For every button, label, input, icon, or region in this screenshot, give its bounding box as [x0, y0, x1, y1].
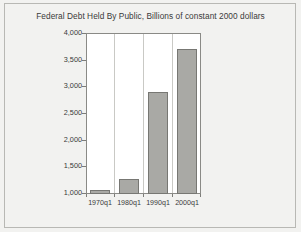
bar-2000q1 — [177, 49, 197, 194]
bar-1980q1 — [119, 179, 139, 194]
x-tick-label-2000q1: 2000q1 — [167, 199, 207, 208]
chart-figure: Federal Debt Held By Public, Billions of… — [0, 0, 301, 232]
y-tick-mark-3500 — [82, 60, 86, 61]
x-tick-mark-4 — [200, 194, 201, 197]
y-tick-mark-2500 — [82, 113, 86, 114]
y-axis-line — [86, 33, 87, 194]
y-tick-mark-4000 — [82, 33, 86, 34]
y-tick-mark-1500 — [82, 166, 86, 167]
y-tick-label-1500: 1,500 — [48, 162, 82, 170]
category-gridline-2 — [143, 34, 144, 193]
category-gridline-1 — [114, 34, 115, 193]
y-tick-label-2500: 2,500 — [48, 109, 82, 117]
y-tick-label-3000: 3,000 — [48, 82, 82, 90]
y-tick-label-3500: 3,500 — [48, 56, 82, 64]
x-tick-mark-0 — [86, 194, 87, 197]
y-tick-mark-3000 — [82, 86, 86, 87]
bar-1990q1 — [148, 92, 168, 194]
y-tick-label-2000: 2,000 — [48, 136, 82, 144]
y-tick-label-4000: 4,000 — [48, 29, 82, 37]
y-tick-mark-2000 — [82, 140, 86, 141]
y-tick-label-1000: 1,000 — [48, 189, 82, 197]
plot-border-top — [86, 33, 201, 34]
x-tick-mark-3 — [172, 194, 173, 197]
x-tick-mark-2 — [143, 194, 144, 197]
plot-border-right — [200, 33, 201, 194]
category-gridline-3 — [172, 34, 173, 193]
x-tick-mark-1 — [114, 194, 115, 197]
y-axis-tick-labels: 4,000 3,500 3,000 2,500 2,000 1,500 1,00… — [44, 0, 82, 232]
bar-1970q1 — [90, 190, 110, 194]
